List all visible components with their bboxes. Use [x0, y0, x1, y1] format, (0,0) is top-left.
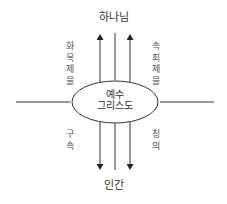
- top-node-label: 하나님: [0, 12, 227, 23]
- downward-label-right: 칭의: [150, 129, 162, 152]
- downward-label-left: 구속: [64, 129, 76, 152]
- upward-label-left: 화목제물: [64, 41, 76, 87]
- center-node-line2: 그리스도: [72, 100, 158, 111]
- upward-label-right: 속죄제물: [150, 41, 162, 87]
- bottom-node-label: 인간: [0, 180, 227, 191]
- center-node-label: 예수 그리스도: [72, 89, 158, 111]
- center-node-line1: 예수: [72, 89, 158, 100]
